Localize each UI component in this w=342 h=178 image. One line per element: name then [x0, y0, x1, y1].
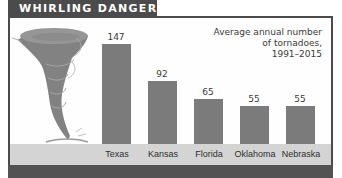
subtitle-line-2: of tornadoes, — [172, 38, 322, 49]
bar-value-nebraska: 55 — [280, 94, 320, 104]
bar-kansas — [148, 81, 177, 144]
bar-nebraska — [286, 106, 315, 144]
chart-title: WHIRLING DANGER — [8, 0, 157, 17]
subtitle-line-3: 1991–2015 — [172, 49, 322, 60]
subtitle-line-1: Average annual number — [172, 27, 322, 38]
bar-value-oklahoma: 55 — [234, 94, 274, 104]
category-label-oklahoma: Oklahoma — [230, 149, 280, 160]
bar-value-kansas: 92 — [142, 69, 182, 79]
bottom-band — [8, 165, 333, 178]
tornado-icon — [12, 24, 94, 148]
bar-oklahoma — [240, 106, 269, 144]
bar-value-florida: 65 — [188, 87, 228, 97]
category-label-kansas: Kansas — [138, 149, 188, 160]
bar-florida — [194, 99, 223, 144]
category-label-nebraska: Nebraska — [276, 149, 326, 160]
chart-subtitle: Average annual number of tornadoes, 1991… — [172, 27, 322, 60]
bar-value-texas: 147 — [96, 32, 136, 42]
category-label-florida: Florida — [184, 149, 234, 160]
category-label-texas: Texas — [92, 149, 142, 160]
bar-texas — [102, 44, 131, 144]
